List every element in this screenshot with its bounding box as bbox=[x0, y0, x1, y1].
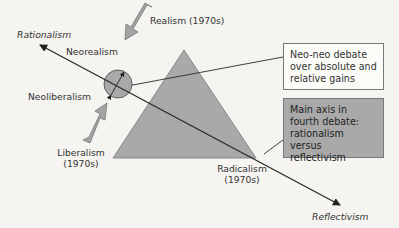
liberalism-arrow-icon bbox=[83, 103, 107, 143]
axis-label-rationalism: Rationalism bbox=[17, 29, 71, 40]
neo-neo-circle bbox=[104, 70, 132, 98]
realism-arrow-icon bbox=[125, 3, 152, 40]
callout-neo-neo-debate: Neo-neo debate over absolute and relativ… bbox=[283, 43, 384, 90]
label-neoliberalism: Neoliberalism bbox=[28, 91, 91, 102]
label-radicalism: Radicalism (1970s) bbox=[214, 163, 270, 185]
callout-main-axis: Main axis in fourth debate: rationalism … bbox=[283, 98, 384, 158]
label-liberalism: Liberalism (1970s) bbox=[56, 147, 106, 169]
axis-label-reflectivism: Reflectivism bbox=[312, 211, 369, 222]
label-neorealism: Neorealism bbox=[66, 46, 118, 57]
label-realism: Realism (1970s) bbox=[150, 15, 224, 26]
main-axis-connector bbox=[264, 140, 283, 154]
